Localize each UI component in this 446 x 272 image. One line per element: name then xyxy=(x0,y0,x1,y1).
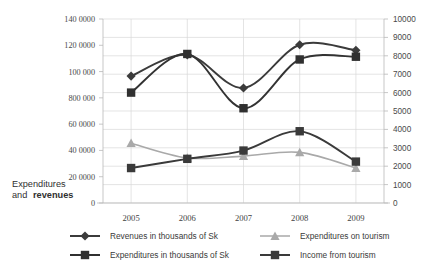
legend-label-1: Revenues in thousands of Sk xyxy=(110,231,219,241)
y-right-tick-label-8: 8000 xyxy=(393,52,412,61)
x-tick-label-2005: 2005 xyxy=(123,213,140,223)
y-left-tick-label-4: 800 000 xyxy=(68,94,95,103)
x-tick-label-2006: 2006 xyxy=(179,213,197,223)
datapoint-s2-2006 xyxy=(183,50,191,58)
datapoint-s1-2005 xyxy=(127,71,136,80)
datapoint-s1-2007 xyxy=(239,83,248,92)
y-axis-title-line2b: revenues xyxy=(33,190,73,200)
y-left-tick-label-0: 0 xyxy=(91,199,95,208)
legend-label-3: Expenditures on tourism xyxy=(300,231,390,241)
chart-figure: 020 000040 000060 0000800 000100 000120 … xyxy=(0,0,446,272)
datapoint-s4-2008 xyxy=(296,127,304,135)
y-left-tick-label-2: 40 0000 xyxy=(68,146,95,155)
y-left-tick-label-7: 140 0000 xyxy=(64,15,95,24)
datapoint-s3-2005 xyxy=(127,139,136,148)
datapoint-s2-2009 xyxy=(352,53,360,61)
legend-marker-4 xyxy=(271,251,279,259)
y-left-tick-label-6: 120 0000 xyxy=(64,41,95,50)
x-tick-label-2009: 2009 xyxy=(347,213,364,223)
y-right-tick-label-1: 1000 xyxy=(393,181,412,190)
y-left-tick-label-3: 60 0000 xyxy=(68,120,95,129)
y-right-tick-label-9: 9000 xyxy=(393,33,412,42)
datapoint-s2-2005 xyxy=(127,88,135,96)
datapoint-s2-2008 xyxy=(296,55,304,63)
chart-svg: 020 000040 000060 0000800 000100 000120 … xyxy=(0,0,446,272)
y-right-tick-label-6: 6000 xyxy=(393,89,412,98)
datapoint-s1-2008 xyxy=(295,40,304,49)
datapoint-s4-2006 xyxy=(183,155,191,163)
datapoint-s4-2007 xyxy=(239,146,247,154)
y-axis-title-line2a: and xyxy=(12,190,27,200)
x-tick-label-2007: 2007 xyxy=(235,213,253,223)
legend-marker-2 xyxy=(81,251,89,259)
legend-label-2: Expenditures in thousands of Sk xyxy=(110,250,230,260)
y-right-tick-label-5: 5000 xyxy=(393,107,412,116)
y-right-tick-label-4: 4000 xyxy=(393,125,412,134)
legend-label-4: Income from tourism xyxy=(300,250,376,260)
y-right-tick-label-2: 2000 xyxy=(393,162,412,171)
datapoint-s2-2007 xyxy=(239,104,247,112)
y-right-tick-label-10: 10000 xyxy=(393,15,416,24)
y-left-tick-label-1: 20 0000 xyxy=(68,173,95,182)
y-right-tick-label-3: 3000 xyxy=(393,144,412,153)
y-right-tick-label-0: 0 xyxy=(393,199,398,208)
datapoint-s4-2009 xyxy=(352,157,360,165)
legend-marker-1 xyxy=(80,231,89,240)
y-right-tick-label-7: 7000 xyxy=(393,70,412,79)
x-tick-label-2008: 2008 xyxy=(291,213,308,223)
y-axis-title-line1: Expenditures xyxy=(12,179,66,189)
y-left-tick-label-5: 100 000 xyxy=(68,68,95,77)
datapoint-s4-2005 xyxy=(127,164,135,172)
